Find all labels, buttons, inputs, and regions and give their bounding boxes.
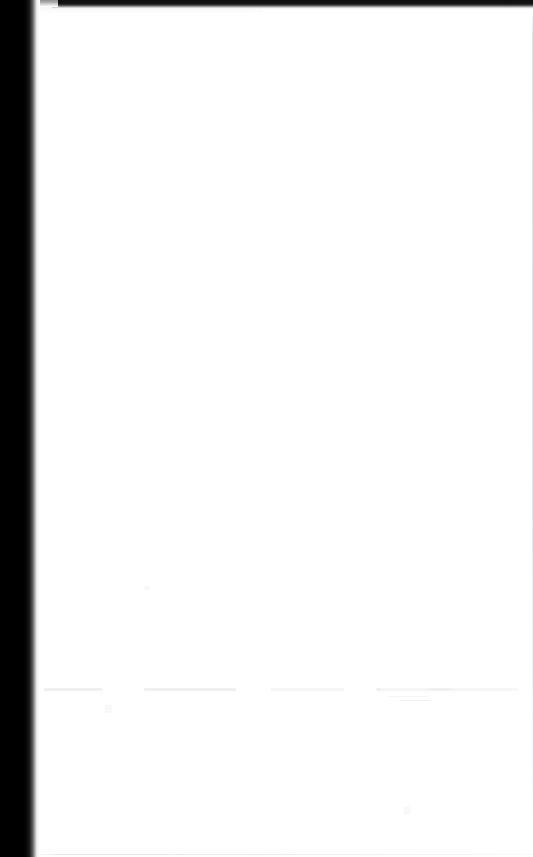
document-body-text xyxy=(70,40,490,640)
ghost-text-row-secondary xyxy=(380,684,530,694)
scanned-document-page xyxy=(0,0,533,857)
ghost-segment xyxy=(270,688,344,691)
ghost-mark-mid xyxy=(105,705,112,713)
ghost-segment xyxy=(44,688,102,691)
ghost-segment xyxy=(452,688,518,691)
ghost-segment xyxy=(144,688,236,691)
ghost-underline xyxy=(388,696,428,697)
ghost-segment xyxy=(380,688,428,691)
left-binding-shadow xyxy=(0,0,40,857)
ghost-mark-upper xyxy=(144,585,150,591)
ghost-underline xyxy=(400,700,430,701)
top-edge-dark-bar xyxy=(52,0,533,9)
ghost-mark-lower xyxy=(403,806,411,815)
page-border-bottom xyxy=(33,854,533,855)
